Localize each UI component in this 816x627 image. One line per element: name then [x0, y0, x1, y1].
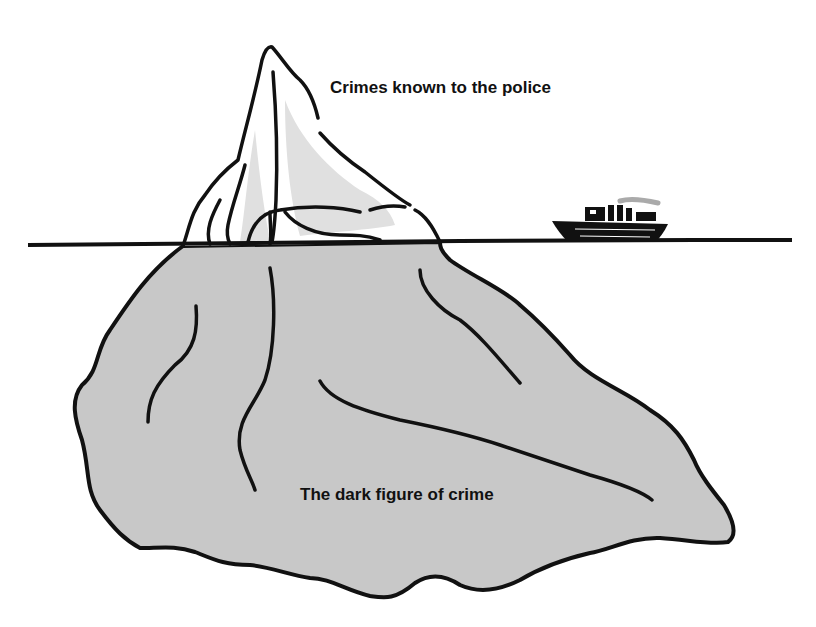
label-dark-figure: The dark figure of crime [300, 485, 494, 505]
label-known-crimes: Crimes known to the police [330, 78, 551, 98]
ship-icon [552, 200, 668, 242]
